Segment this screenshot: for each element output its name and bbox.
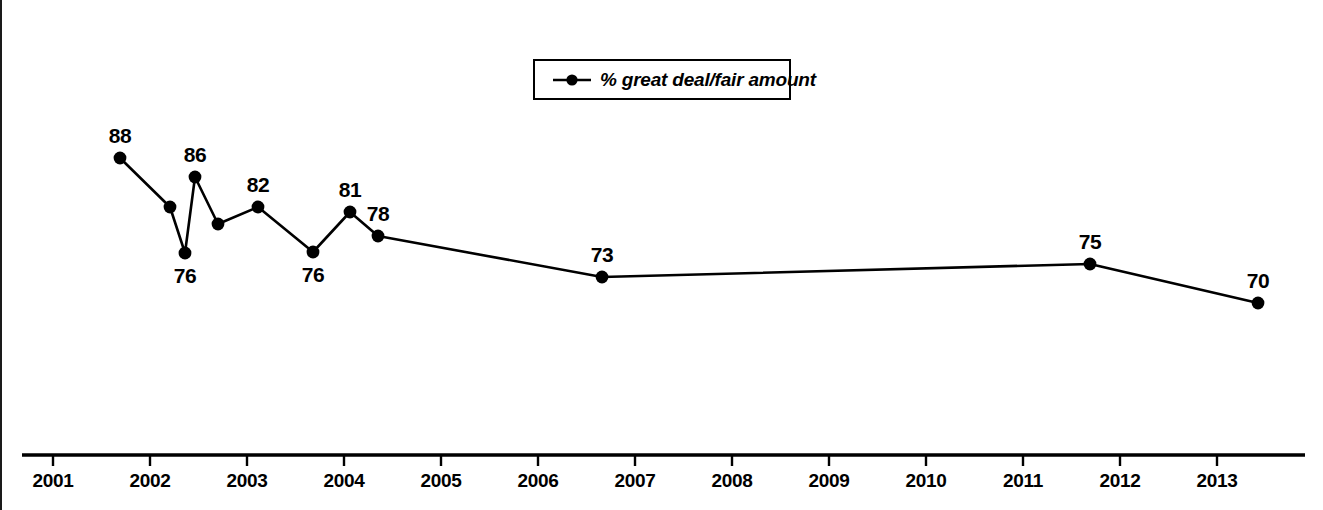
x-axis-tick-label: 2009 [808, 470, 849, 492]
x-axis-tick-label: 2012 [1099, 470, 1140, 492]
data-point-marker [1084, 258, 1097, 271]
data-point-marker [596, 271, 609, 284]
data-point-value-label: 86 [184, 143, 206, 167]
x-axis-tick-label: 2011 [1003, 470, 1043, 492]
data-point-marker [189, 171, 202, 184]
x-axis-tick-label: 2003 [226, 470, 267, 492]
data-point-value-label: 73 [591, 243, 613, 267]
legend: % great deal/fair amount [533, 59, 791, 100]
data-point-value-label: 76 [174, 264, 196, 288]
x-axis-tick-label: 2008 [711, 470, 752, 492]
data-point-marker [307, 246, 320, 259]
data-point-value-label: 76 [302, 263, 324, 287]
x-axis-tick-label: 2002 [129, 470, 170, 492]
line-chart-figure: 2001200220032004200520062007200820092010… [0, 0, 1323, 510]
x-axis-tick-label: 2001 [32, 470, 73, 492]
data-point-value-label: 88 [109, 124, 131, 148]
data-point-marker [179, 247, 192, 260]
data-point-value-label: 82 [247, 173, 269, 197]
data-point-marker [164, 201, 177, 214]
data-point-marker [372, 230, 385, 243]
data-point-value-label: 70 [1247, 269, 1269, 293]
data-point-marker [1252, 297, 1265, 310]
data-point-marker [344, 206, 357, 219]
x-axis-tick-label: 2013 [1196, 470, 1237, 492]
x-axis-tick-label: 2005 [420, 470, 461, 492]
legend-series-label: % great deal/fair amount [600, 69, 816, 91]
data-point-value-label: 75 [1079, 230, 1101, 254]
data-point-value-label: 81 [339, 178, 361, 202]
x-axis-tick-label: 2010 [905, 470, 946, 492]
data-point-marker [252, 201, 265, 214]
data-point-value-label: 78 [367, 202, 389, 226]
x-axis-tick-label: 2006 [517, 470, 558, 492]
data-point-marker [114, 152, 127, 165]
data-point-marker [212, 218, 225, 231]
x-axis-tick-label: 2007 [614, 470, 655, 492]
x-axis-tick-label: 2004 [323, 470, 364, 492]
line-dot-marker-icon [552, 72, 592, 88]
